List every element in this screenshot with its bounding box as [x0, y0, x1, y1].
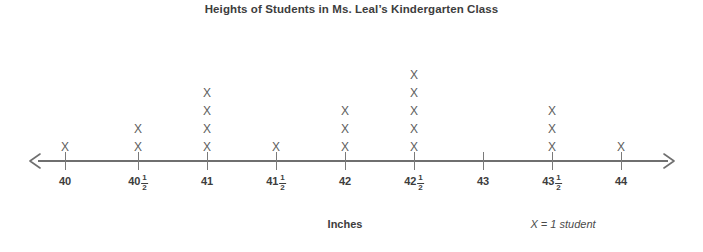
- x-marker: X: [548, 138, 556, 156]
- fraction-numerator: 1: [556, 174, 560, 182]
- x-marker: X: [134, 138, 142, 156]
- x-marker: X: [203, 138, 211, 156]
- x-marker-stack: X: [272, 138, 280, 156]
- tick-label-whole: 42: [339, 175, 351, 187]
- fraction-denominator: 2: [556, 184, 560, 192]
- fraction-numerator: 1: [280, 174, 284, 182]
- axis-tick-label: 4212: [404, 175, 424, 193]
- tick-label-fraction: 12: [141, 174, 148, 192]
- axis-tick-label: 4112: [266, 175, 286, 193]
- fraction-numerator: 1: [142, 174, 146, 182]
- axis-tick-label: 41: [201, 175, 213, 187]
- x-marker: X: [410, 120, 418, 138]
- x-marker: X: [61, 138, 69, 156]
- tick-label-whole: 43: [542, 175, 554, 187]
- axis-tick-label: 42: [339, 175, 351, 187]
- x-marker: X: [134, 120, 142, 138]
- x-marker: X: [272, 138, 280, 156]
- tick-label-whole: 42: [404, 175, 416, 187]
- axis-label-inches: Inches: [328, 218, 363, 230]
- tick-label-fraction: 12: [555, 174, 562, 192]
- x-marker: X: [203, 84, 211, 102]
- legend-key: X = 1 student: [530, 218, 595, 230]
- x-marker: X: [548, 120, 556, 138]
- x-marker-stack: X: [617, 138, 625, 156]
- fraction-denominator: 2: [142, 184, 146, 192]
- x-marker: X: [548, 102, 556, 120]
- number-line-axis: [38, 160, 668, 162]
- x-marker: X: [617, 138, 625, 156]
- fraction-denominator: 2: [418, 184, 422, 192]
- tick-label-whole: 40: [59, 175, 71, 187]
- axis-tick-label: 43: [477, 175, 489, 187]
- x-marker: X: [203, 102, 211, 120]
- x-marker-stack: XXX: [341, 102, 349, 156]
- line-plot-figure: Heights of Students in Ms. Leal’s Kinder…: [0, 0, 703, 252]
- chart-title: Heights of Students in Ms. Leal’s Kinder…: [0, 3, 703, 15]
- axis-tick-label: 4312: [542, 175, 562, 193]
- x-marker: X: [410, 66, 418, 84]
- x-marker: X: [410, 102, 418, 120]
- x-marker-stack: XXX: [548, 102, 556, 156]
- fraction-numerator: 1: [418, 174, 422, 182]
- x-marker-stack: XXXXX: [410, 66, 418, 156]
- axis-tick-label: 40: [59, 175, 71, 187]
- x-marker: X: [410, 84, 418, 102]
- axis-arrow-right-icon: [660, 153, 676, 169]
- x-marker-stack: XX: [134, 120, 142, 156]
- axis-tick: [483, 152, 484, 170]
- tick-label-whole: 44: [615, 175, 627, 187]
- tick-label-fraction: 12: [279, 174, 286, 192]
- x-marker: X: [341, 138, 349, 156]
- tick-label-whole: 41: [201, 175, 213, 187]
- tick-label-whole: 40: [128, 175, 140, 187]
- tick-label-whole: 43: [477, 175, 489, 187]
- x-marker: X: [341, 102, 349, 120]
- axis-tick-label: 44: [615, 175, 627, 187]
- x-marker: X: [203, 120, 211, 138]
- x-marker-stack: X: [61, 138, 69, 156]
- x-marker-stack: XXXX: [203, 84, 211, 156]
- x-marker: X: [410, 138, 418, 156]
- fraction-denominator: 2: [280, 184, 284, 192]
- tick-label-whole: 41: [266, 175, 278, 187]
- tick-label-fraction: 12: [417, 174, 424, 192]
- x-marker: X: [341, 120, 349, 138]
- axis-tick-label: 4012: [128, 175, 148, 193]
